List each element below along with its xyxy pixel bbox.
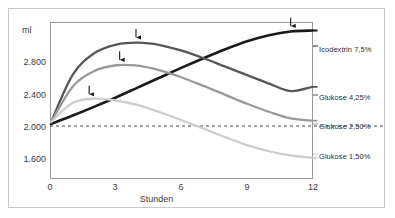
plot-area-frame [51, 23, 313, 179]
plot-canvas [0, 0, 395, 218]
chart-figure: ml 2.800 2.400 2.000 1.600 0 3 6 9 12 St… [0, 0, 395, 218]
